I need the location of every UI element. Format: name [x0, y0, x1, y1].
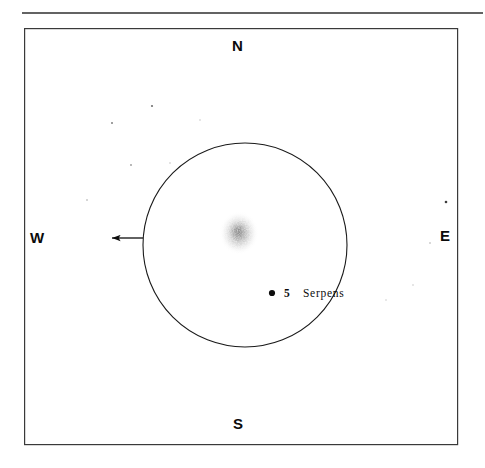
field-star [86, 199, 88, 201]
finder-chart: N S W E 5 Serpens [0, 0, 485, 468]
field-star [169, 162, 170, 163]
field-star [445, 201, 448, 204]
cluster-core [227, 219, 249, 243]
finder-chart-canvas [0, 0, 485, 468]
field-star [151, 105, 153, 107]
field-star [130, 164, 132, 166]
field-star [385, 299, 386, 300]
compass-label-east: E [440, 228, 450, 243]
field-star [412, 284, 413, 285]
compass-label-south: S [233, 416, 243, 431]
star-designation-label: 5 [284, 287, 290, 299]
compass-label-north: N [232, 38, 243, 53]
globular-cluster [219, 211, 259, 255]
field-star [199, 119, 200, 120]
compass-label-west: W [30, 230, 44, 245]
field-stars-group [86, 105, 447, 301]
constellation-name-label: Serpens [303, 287, 344, 299]
marked-star-dot [269, 290, 275, 296]
field-star [429, 242, 431, 244]
field-star [111, 122, 113, 124]
